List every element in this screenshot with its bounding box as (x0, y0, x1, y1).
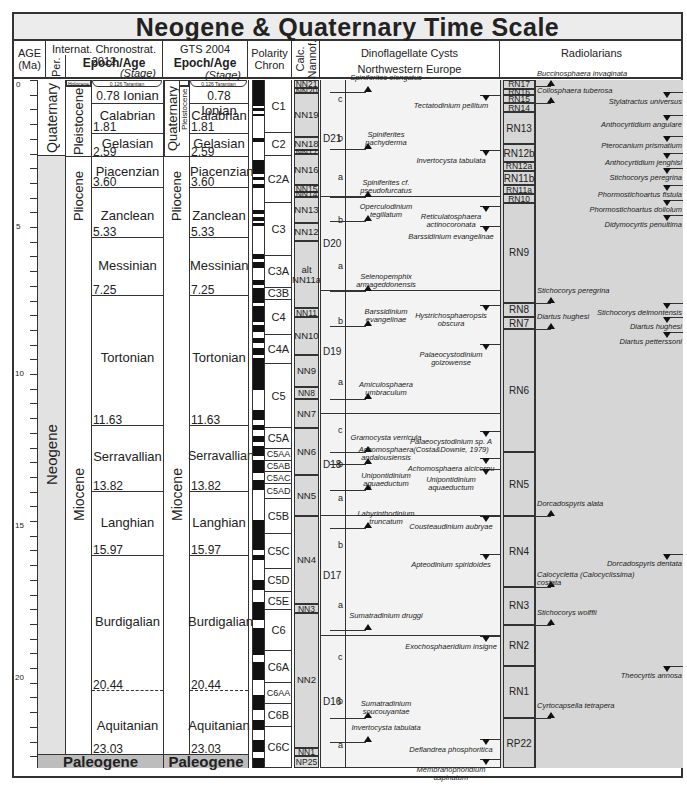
period-quaternary: Quaternary (38, 80, 65, 156)
event-line (330, 630, 366, 631)
first-occurrence-icon (547, 323, 555, 329)
event-line (330, 490, 366, 491)
first-occurrence-icon (364, 736, 372, 742)
radiolarian-zone: RN13 (503, 112, 535, 144)
boundary-line (92, 237, 163, 238)
radiolarian-event-lo: Phormostichoartus doliolum (580, 206, 682, 214)
nannofossil-zone: NN1 (294, 748, 319, 757)
radiolarian-event-lo: Stylatractus universus (580, 98, 682, 106)
nannofossil-zone: alt NN11a (294, 241, 319, 308)
event-line (330, 92, 366, 93)
gts-epoch-pleistocene: Pleistocene (179, 86, 189, 132)
radiolarian-zone: RN6 (503, 329, 535, 452)
chron-zone: C6C (265, 727, 292, 768)
boundary-line (92, 133, 163, 134)
header-gts2004: GTS 2004 Epoch/Age (Stage) (163, 41, 248, 79)
last-occurrence-icon (482, 458, 490, 464)
chron-zone: C5 (265, 364, 292, 428)
gts-stage-serravallian: Serravallian (188, 449, 250, 463)
boundary-line-dashed (190, 690, 248, 691)
nannofossil-zone: NN10 (294, 317, 319, 355)
radiolarian-zone: RP22 (503, 718, 535, 768)
radiolarian-zone: RN7 (503, 317, 535, 329)
boundary-line (92, 295, 163, 296)
nannofossil-zone: NN8 (294, 387, 319, 399)
header-age-unit: (Ma) (14, 59, 45, 71)
dinocyst-event-lo: Cousteaudinium aubryae (405, 523, 497, 531)
radiolarian-zone: RN1 (503, 666, 535, 719)
radiolarian-event-lo: Diartus petterssoni (580, 338, 682, 346)
last-occurrence-icon (482, 739, 490, 745)
event-line (535, 587, 551, 588)
stage-tarantian: 0.126 Tarantian (92, 80, 162, 87)
nannofossil-zone: NN7 (294, 399, 319, 428)
dinocyst-event-fo: Spiniferites pachyderma (346, 131, 426, 147)
nannofossil-zone: NN6 (294, 428, 319, 475)
boundary-line (190, 555, 248, 556)
event-line (535, 303, 551, 304)
dinocyst-subzone-label: a (338, 377, 343, 387)
chron-zone: C2A (265, 156, 292, 203)
radiolarian-zone: RN8 (503, 303, 535, 318)
age-tick-5: 5 (16, 222, 20, 231)
age-1.81: 1.81 (93, 120, 116, 134)
header-gts-epoch-age: Epoch/Age (163, 57, 247, 69)
event-line (535, 103, 551, 104)
nannofossil-zone: NN13 (294, 197, 319, 223)
boundary-line (190, 187, 248, 188)
dinocyst-event-fo: Selenopemphix armageddonensis (346, 273, 426, 289)
chron-zone: C2 (265, 133, 292, 156)
chron-zone: C5AD (265, 484, 292, 499)
stage-ionian: 0.78 Ionian (92, 88, 163, 103)
chron-zone: C5D (265, 569, 292, 592)
chron-zone: C5C (265, 534, 292, 569)
first-occurrence-icon (547, 80, 555, 86)
boundary-line-dashed (92, 690, 163, 691)
chron-zone: C5AC (265, 472, 292, 484)
dinocyst-event-fo: Spiniferites cf. pseudofurcatus (346, 179, 426, 195)
event-line (330, 718, 366, 719)
radiolarian-event-fo: Cyrtocapsella tetrapera (537, 702, 637, 710)
last-occurrence-icon (482, 344, 490, 350)
radiolarian-zone: RN9 (503, 203, 535, 303)
last-occurrence-icon (482, 469, 490, 475)
header-gts-label: GTS 2004 (163, 41, 247, 55)
age-minor-ticks (30, 80, 38, 768)
last-occurrence-icon (482, 95, 490, 101)
gts-epoch-miocene: Miocene (164, 236, 189, 754)
boundary-line (92, 491, 163, 492)
chron-zone: C6A (265, 651, 292, 683)
stage-burdigalian: Burdigalian (92, 614, 163, 629)
event-line (330, 326, 366, 327)
dinocyst-event-lo: Palaeocystodinium golzowense (405, 351, 497, 367)
gts-period-quaternary: Quaternary (164, 80, 179, 156)
header-nannof-label: Calc. Nannof. (294, 40, 318, 79)
nannofossil-zone: NN9 (294, 355, 319, 387)
dinocyst-subzone-label: b (338, 215, 343, 225)
dinocyst-event-lo: Palaeocystodinium sp. A (Costa&Downie, 1… (405, 438, 497, 454)
divider (91, 80, 92, 754)
last-occurrence-icon (482, 206, 490, 212)
boundary-line (190, 133, 248, 134)
gts-age-1.81: 1.81 (191, 120, 214, 134)
header-polarity: Polarity Chron (248, 41, 292, 79)
radiolarian-event-lo: Pterocanium prismatium (580, 142, 682, 150)
polarity-bars (252, 80, 265, 768)
dinocyst-subzone-label: b (338, 696, 343, 706)
nannofossil-zone: NN4 (294, 516, 319, 604)
boundary-line (92, 425, 163, 426)
dinocyst-event-fo: Spiniferites elongatus (346, 74, 426, 82)
nannofossil-zone: NP25 (294, 756, 319, 768)
first-occurrence-icon (547, 297, 555, 303)
event-line (330, 149, 366, 150)
period-neogene-label: Neogene (38, 156, 65, 754)
chron-zone: C5AA (265, 449, 292, 461)
boundary-line (92, 156, 163, 157)
radiolarian-zone: RN3 (503, 587, 535, 625)
radiolarian-event-fo: Collosphaera tuberosa (537, 87, 637, 95)
stage-label: Ionian (123, 88, 158, 103)
first-occurrence-icon (547, 712, 555, 718)
boundary-line (190, 295, 248, 296)
radiolarian-zone: RN4 (503, 516, 535, 586)
radiolarian-zone: RN5 (503, 452, 535, 516)
